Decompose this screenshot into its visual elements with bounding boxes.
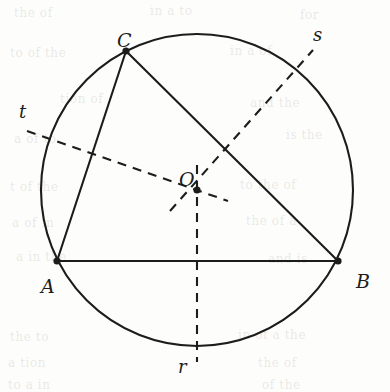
geometry-figure: the ofin a toforto of thein a oftion ofa… bbox=[0, 0, 390, 392]
geometry-canvas bbox=[0, 0, 390, 392]
line-label-t: t bbox=[19, 103, 26, 121]
line-label-r: r bbox=[178, 358, 187, 376]
segment-ac bbox=[57, 51, 126, 261]
point-a-marker bbox=[53, 257, 60, 264]
segment-cb bbox=[126, 51, 338, 261]
line-label-s: s bbox=[313, 26, 322, 44]
point-label-a: A bbox=[41, 277, 55, 296]
center-label-o: O bbox=[179, 170, 195, 189]
point-label-b: B bbox=[356, 272, 370, 291]
point-b-marker bbox=[334, 257, 341, 264]
point-label-c: C bbox=[117, 31, 132, 50]
